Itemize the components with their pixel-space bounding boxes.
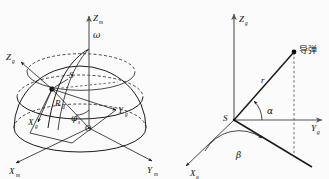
origin-o-label: O xyxy=(85,123,92,133)
axis-xm-label: X m xyxy=(8,166,20,178)
svg-text:m: m xyxy=(16,172,20,178)
mid-latitude-ellipse-back xyxy=(17,75,143,97)
range-vector-r xyxy=(234,52,294,120)
r-axis-yg-label: Y g xyxy=(311,123,320,135)
upper-latitude-ellipse-back xyxy=(27,54,135,72)
svg-text:φ: φ xyxy=(71,113,78,123)
left-panel-group: Z m ω Z g S R d φ s O X g xyxy=(6,13,158,178)
axis-ym-line xyxy=(89,128,152,161)
axis-zg-label: Z g xyxy=(6,52,15,64)
svg-text:m: m xyxy=(154,171,158,177)
r-axis-zg-label: Z g xyxy=(239,14,248,26)
r-origin-s-marker xyxy=(233,119,235,121)
svg-text:g: g xyxy=(245,20,248,26)
svg-text:g: g xyxy=(317,129,320,135)
axis-ym-label: Y m xyxy=(147,165,158,177)
target-label: 导弹 xyxy=(299,44,317,55)
angle-beta-label: β xyxy=(235,150,241,160)
r-axis-xg-line xyxy=(186,120,234,166)
r-axis-xg-label: X g xyxy=(189,168,199,179)
svg-text:X: X xyxy=(8,166,15,176)
target-marker xyxy=(292,50,297,55)
svg-text:X: X xyxy=(189,168,196,178)
figure-canvas: Z m ω Z g S R d φ s O X g xyxy=(0,0,329,179)
angle-alpha-label: α xyxy=(267,106,273,116)
svg-text:g: g xyxy=(12,58,15,64)
hemisphere-base-front-arc xyxy=(14,128,146,152)
svg-text:Y: Y xyxy=(147,165,153,175)
svg-text:g: g xyxy=(125,111,128,117)
axis-xm-line xyxy=(16,128,89,163)
svg-text:g: g xyxy=(35,123,38,129)
omega-label: ω xyxy=(93,30,101,40)
svg-text:m: m xyxy=(99,19,103,25)
axis-zg-line xyxy=(21,62,52,89)
point-s-label: S xyxy=(69,70,74,80)
svg-text:X: X xyxy=(27,117,34,127)
ground-projection-line xyxy=(234,120,312,167)
r-origin-s-label: S xyxy=(223,113,228,123)
svg-text:g: g xyxy=(196,174,199,179)
svg-text:R: R xyxy=(54,98,61,108)
axis-yg-label: Y g xyxy=(118,105,128,117)
right-panel-group: Z g Y g X g S r α β 导弹 xyxy=(186,14,322,179)
svg-text:s: s xyxy=(78,119,80,125)
axis-zm-label: Z m xyxy=(93,13,103,25)
angle-beta-arc xyxy=(205,131,262,151)
range-r-label: r xyxy=(261,75,265,85)
angle-alpha-arc xyxy=(254,101,262,120)
svg-text:d: d xyxy=(62,104,65,110)
angle-phi-arc xyxy=(76,110,89,115)
